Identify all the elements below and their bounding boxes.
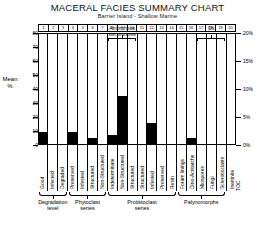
column-number-2: 2 xyxy=(49,25,59,31)
category-cell-2: Infected xyxy=(48,145,58,191)
column-number-20: 20 xyxy=(226,25,235,31)
annotation-stem-2 xyxy=(211,35,212,38)
category-label-5: Infested xyxy=(80,171,85,189)
group-label-line-2: series xyxy=(100,205,183,211)
group-brackets: DegradationlevelPhytoclastseriesProtisto… xyxy=(38,192,236,226)
column-number-9: 9 xyxy=(118,25,128,31)
column-number-8: 8 xyxy=(108,25,118,31)
bar-column-18 xyxy=(207,33,217,145)
right-tick-label-0: 0% xyxy=(243,143,250,148)
column-number-4: 4 xyxy=(69,25,79,31)
right-tick-mark-20 xyxy=(236,33,241,34)
category-cell-11: Structured xyxy=(138,145,148,191)
category-label-2: Infected xyxy=(50,171,55,189)
bar-column-3 xyxy=(58,33,68,145)
category-cell-1: Good xyxy=(38,145,48,191)
bar-column-14 xyxy=(167,33,177,145)
category-label-12: Infested xyxy=(150,171,155,189)
category-label-13: Preserved xyxy=(160,166,165,189)
category-label-20: Inertinite xyxy=(230,170,235,189)
bar-column-20 xyxy=(227,33,236,145)
category-cell-16: Dino-Acritarchs xyxy=(187,145,197,191)
column-number-11: 11 xyxy=(137,25,147,31)
category-cell-5: Infested xyxy=(78,145,88,191)
category-label-8: Indeterminate xyxy=(110,158,115,189)
column-number-16: 16 xyxy=(187,25,197,31)
bar-column-2 xyxy=(48,33,58,145)
column-number-12: 12 xyxy=(147,25,157,31)
maceral-facies-summary-chart: MACERAL FACIES SUMMARY CHART Barrier Isl… xyxy=(0,0,275,230)
bar-column-11 xyxy=(138,33,148,145)
category-label-7: Non-Structured xyxy=(100,155,105,189)
bar-9 xyxy=(118,96,127,145)
category-cell-14: Resin xyxy=(167,145,177,191)
bar-column-7 xyxy=(98,33,108,145)
column-number-14: 14 xyxy=(167,25,177,31)
bar-column-9 xyxy=(118,33,128,145)
category-label-1: Good xyxy=(40,177,45,189)
category-label-toc: TOC xyxy=(236,181,241,191)
bar-6 xyxy=(88,138,97,145)
category-cell-8: Indeterminate xyxy=(108,145,118,191)
category-label-11: Structured xyxy=(140,166,145,189)
category-label-18: Fungi xyxy=(210,176,215,189)
bar-16 xyxy=(187,138,196,145)
column-number-19: 19 xyxy=(216,25,226,31)
chart-title: MACERAL FACIES SUMMARY CHART xyxy=(0,2,275,13)
annotation-stem-1 xyxy=(122,35,123,38)
bar-column-19 xyxy=(217,33,227,145)
category-cell-13: Preserved xyxy=(157,145,167,191)
category-label-15: Foram linings xyxy=(180,159,185,189)
category-cell-9: Non-Structured xyxy=(118,145,128,191)
category-label-14: Resin xyxy=(170,176,175,189)
bar-column-12 xyxy=(147,33,157,145)
category-cell-17: Miospores xyxy=(197,145,207,191)
column-number-15: 15 xyxy=(177,25,187,31)
column-number-13: 13 xyxy=(157,25,167,31)
bar-columns xyxy=(38,33,236,145)
column-number-17: 17 xyxy=(197,25,207,31)
category-labels: GoodInfectedDegradedPreservedInfestedStr… xyxy=(38,145,236,191)
category-label-3: Degraded xyxy=(60,167,65,189)
bar-column-5 xyxy=(78,33,88,145)
chart-subtitle: Barrier Island - Shallow Marine xyxy=(0,13,275,20)
bar-column-4 xyxy=(68,33,78,145)
category-label-19: Sclerotioclasts xyxy=(220,157,225,189)
category-cell-6: Structured xyxy=(88,145,98,191)
bar-column-10 xyxy=(128,33,138,145)
column-number-header: 1234567891011121314151617181920 xyxy=(38,24,236,32)
bar-column-6 xyxy=(88,33,98,145)
group-3: Protistoclastseries xyxy=(108,192,175,226)
bar-4 xyxy=(68,132,77,145)
category-label-10: Structured xyxy=(130,166,135,189)
right-tick-label-10: 10% xyxy=(243,87,253,92)
column-number-18: 18 xyxy=(206,25,216,31)
bar-column-17 xyxy=(197,33,207,145)
category-label-4: Preserved xyxy=(70,166,75,189)
category-cell-7: Non-Structured xyxy=(98,145,108,191)
category-cell-10: Structured xyxy=(128,145,138,191)
right-tick-mark-5 xyxy=(236,117,241,118)
column-number-3: 3 xyxy=(59,25,69,31)
category-cell-18: Fungi xyxy=(207,145,217,191)
right-tick-mark-0 xyxy=(236,145,241,146)
column-number-7: 7 xyxy=(98,25,108,31)
category-label-6: Structured xyxy=(90,166,95,189)
column-number-1: 1 xyxy=(39,25,49,31)
category-cell-3: Degraded xyxy=(58,145,68,191)
y-axis-label: Mean % xyxy=(2,76,18,90)
column-number-5: 5 xyxy=(78,25,88,31)
right-tick-label-15: 15% xyxy=(243,59,253,64)
category-cell-4: Preserved xyxy=(68,145,78,191)
group-label-4: Palynomorphs xyxy=(170,199,234,205)
annotation-bracket-2 xyxy=(197,38,225,41)
category-cell-12: Infested xyxy=(147,145,157,191)
right-tick-mark-10 xyxy=(236,89,241,90)
right-tick-label-5: 5% xyxy=(243,115,250,120)
category-label-17: Miospores xyxy=(200,166,205,189)
title-block: MACERAL FACIES SUMMARY CHART Barrier Isl… xyxy=(0,2,275,20)
group-4: Palynomorphs xyxy=(178,192,226,226)
category-label-16: Dino-Acritarchs xyxy=(190,155,195,189)
category-label-9: Non-Structured xyxy=(120,155,125,189)
group-label-line-1: Palynomorphs xyxy=(170,199,234,205)
